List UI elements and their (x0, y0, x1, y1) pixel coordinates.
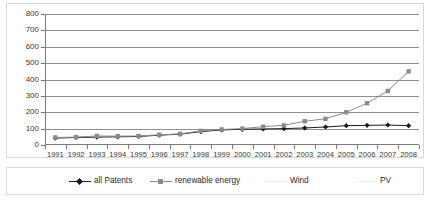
legend-marker-icon (150, 176, 172, 186)
x-tick-mark (377, 145, 378, 149)
x-tick-mark (149, 145, 150, 149)
chart-screenshot: 8007006005004003002001000 19911992199319… (0, 0, 430, 203)
data-point-marker (157, 133, 161, 137)
x-tick-mark (128, 145, 129, 149)
series-renewable-energy (53, 69, 411, 140)
plot-area (45, 14, 419, 145)
chart-plot-frame: 8007006005004003002001000 19911992199319… (6, 3, 424, 158)
data-point-marker (302, 125, 307, 130)
data-point-marker (365, 101, 369, 105)
x-tick-mark (336, 145, 337, 149)
data-point-marker (282, 123, 286, 127)
data-point-marker (364, 123, 369, 128)
data-point-marker (178, 132, 182, 136)
y-tick-label: 0 (7, 141, 39, 149)
x-tick-mark (87, 145, 88, 149)
y-tick-label: 400 (7, 76, 39, 84)
data-point-marker (261, 124, 265, 128)
data-point-marker (323, 124, 328, 129)
data-point-marker (95, 134, 99, 138)
series-all-patents (53, 122, 411, 140)
data-point-marker (53, 135, 57, 139)
legend-item-wind[interactable]: Wind (265, 174, 309, 188)
x-tick-mark (357, 145, 358, 149)
x-tick-mark (66, 145, 67, 149)
data-point-marker (136, 134, 140, 138)
x-tick-mark (294, 145, 295, 149)
data-point-marker (323, 117, 327, 121)
y-tick-label: 700 (7, 26, 39, 34)
y-tick-label: 100 (7, 125, 39, 133)
x-tick-mark (253, 145, 254, 149)
y-tick-label: 800 (7, 10, 39, 18)
chart-legend: all Patentsrenewable energyWindPV (6, 167, 424, 195)
legend-marker-icon (355, 176, 377, 186)
legend-marker-icon (265, 176, 287, 186)
data-point-marker (344, 123, 349, 128)
x-tick-mark (274, 145, 275, 149)
data-point-marker (199, 129, 203, 133)
legend-label: PV (380, 176, 391, 186)
x-tick-mark (45, 145, 46, 149)
data-point-marker (385, 122, 390, 127)
data-point-marker (219, 127, 223, 131)
x-tick-mark (190, 145, 191, 149)
data-point-marker (344, 110, 348, 114)
legend-label: Wind (290, 176, 309, 186)
y-tick-label: 600 (7, 43, 39, 51)
data-point-marker (74, 135, 78, 139)
data-point-marker (303, 119, 307, 123)
data-point-marker (406, 69, 410, 73)
x-tick-mark (419, 145, 420, 149)
x-tick-mark (170, 145, 171, 149)
legend-item-renewable-energy[interactable]: renewable energy (150, 174, 240, 188)
y-tick-label: 300 (7, 92, 39, 100)
data-point-marker (386, 89, 390, 93)
y-tick-label: 500 (7, 59, 39, 67)
series-line (55, 71, 408, 137)
legend-marker-icon (69, 176, 91, 186)
x-tick-label: 2008 (396, 151, 421, 159)
x-tick-mark (211, 145, 212, 149)
y-tick-label: 200 (7, 108, 39, 116)
x-tick-mark (232, 145, 233, 149)
legend-item-all-patents[interactable]: all Patents (69, 174, 132, 188)
series-layer (45, 14, 419, 145)
data-point-marker (240, 126, 244, 130)
legend-label: all Patents (94, 176, 132, 186)
x-tick-mark (107, 145, 108, 149)
data-point-marker (406, 123, 411, 128)
x-tick-mark (315, 145, 316, 149)
data-point-marker (116, 134, 120, 138)
legend-label: renewable energy (175, 176, 240, 186)
legend-item-pv[interactable]: PV (355, 174, 391, 188)
x-tick-mark (398, 145, 399, 149)
